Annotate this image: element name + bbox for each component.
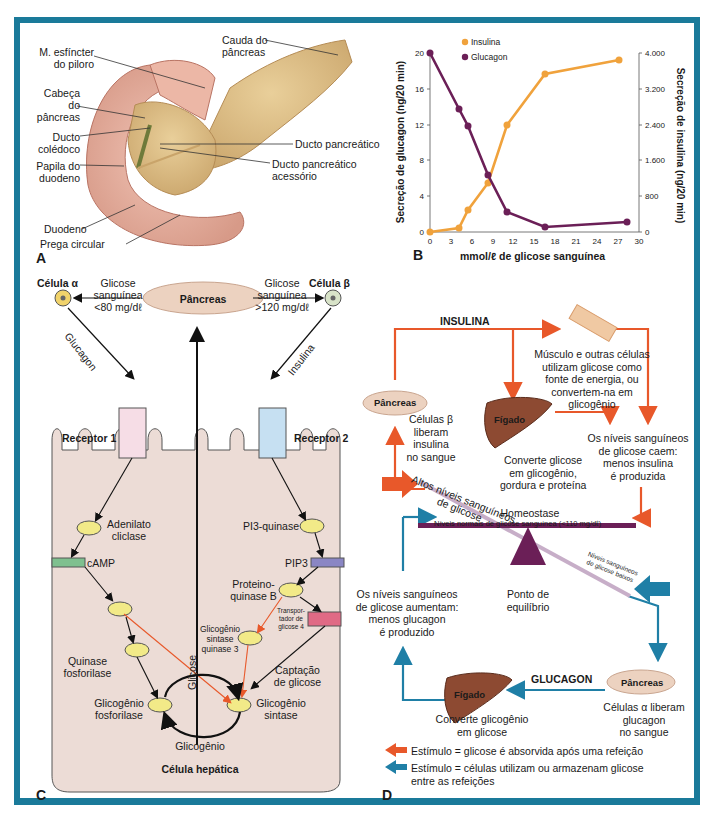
normal-levels-label: Níveis normais de glicose sanguínea (<11…: [434, 518, 601, 530]
label-line: Músculo e outras células: [527, 348, 657, 361]
levels-rise-text: Os níveis sanguíneos de glicose aumentam…: [352, 588, 462, 638]
label-line: em glicose: [432, 726, 532, 739]
liver-bottom-text: Converte glicogênio em glicose: [432, 713, 532, 738]
legend-orange-arrow-icon: [385, 743, 407, 757]
label-line: Os níveis sanguíneos: [352, 588, 462, 601]
beta-release-text: Células β liberam insulina no sangue: [405, 413, 457, 463]
label-line: liberam: [405, 426, 457, 439]
liver-top-text: Converte glicose em glicogênio, gordura …: [500, 454, 586, 492]
label-line: Estímulo = células utilizam ou armazenam…: [411, 762, 644, 775]
muscle-icon: [569, 305, 617, 342]
label-line: gordura e proteína: [500, 479, 586, 492]
label-line: Células α liberam: [600, 701, 688, 714]
label-line: Os níveis sanguíneos: [583, 432, 693, 445]
liver-bottom-label: Fígado: [454, 689, 485, 701]
legend-orange-text: Estímulo = glicose é absorvida após uma …: [411, 745, 643, 757]
pancreas-top-label: Pâncreas: [374, 397, 416, 409]
glucagon-title: GLUCAGON: [531, 673, 592, 685]
label-line: menos glucagon: [352, 613, 462, 626]
label-line: Converte glicose: [500, 454, 586, 467]
label-line: fonte de energia, ou: [527, 373, 657, 386]
label-line: entre as refeições: [411, 775, 644, 788]
label-line: glicogênio: [527, 398, 657, 411]
label-line: insulina: [405, 438, 457, 451]
levels-fall-text: Os níveis sanguíneos de glicose caem: me…: [583, 432, 693, 482]
label-line: de glicose caem:: [583, 445, 693, 458]
label-line: em glicogênio,: [500, 467, 586, 480]
label-line: Converte glicogênio: [432, 713, 532, 726]
label-line: de glicose aumentam:: [352, 601, 462, 614]
pancreas-bottom-label: Pâncreas: [621, 677, 663, 689]
label-line: é produzida: [583, 470, 693, 483]
label-line: Células β: [405, 413, 457, 426]
label-line: Ponto de: [498, 588, 558, 601]
label-line: menos insulina: [583, 457, 693, 470]
panel-letter-d: D: [382, 787, 392, 803]
alpha-release-text: Células α liberam glucagon no sangue: [600, 701, 688, 739]
balance-point-label: Ponto de equilíbrio: [498, 588, 558, 613]
muscle-text: Músculo e outras células utilizam glicos…: [527, 348, 657, 411]
legend-blue-text: Estímulo = células utilizam ou armazenam…: [411, 762, 644, 787]
label-line: é produzido: [352, 626, 462, 639]
label-line: glucagon: [600, 714, 688, 727]
insulin-title: INSULINA: [440, 315, 490, 327]
label-line: no sangue: [600, 726, 688, 739]
label-line: convertem-na em: [527, 386, 657, 399]
label-line: no sangue: [405, 451, 457, 464]
liver-top-label: Fígado: [494, 414, 525, 426]
legend-blue-arrow-icon: [385, 760, 407, 774]
label-line: utilizam glicose como: [527, 361, 657, 374]
label-line: equilíbrio: [498, 601, 558, 614]
